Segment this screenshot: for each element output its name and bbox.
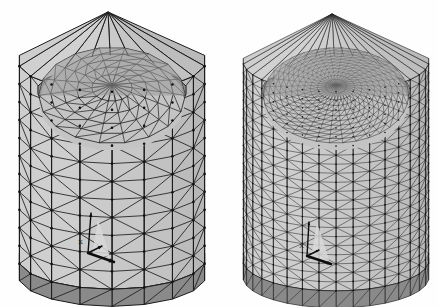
mesh-node — [425, 132, 427, 134]
mesh-node — [425, 105, 427, 107]
mesh-node — [111, 162, 114, 165]
mesh-node — [246, 105, 248, 107]
mesh-node — [286, 177, 288, 179]
mesh-node — [252, 119, 254, 121]
mesh-node — [143, 160, 146, 163]
mesh-node — [29, 237, 32, 240]
mesh-node — [302, 152, 304, 154]
mesh-node — [243, 145, 245, 147]
mesh-node — [335, 118, 337, 120]
mesh-node — [318, 290, 320, 292]
mesh-node — [335, 172, 337, 174]
mesh-node — [352, 217, 354, 219]
mesh-node — [252, 264, 254, 266]
mesh-node — [261, 106, 263, 108]
mesh-node — [425, 268, 427, 270]
mesh-node — [418, 146, 420, 148]
mesh-node — [398, 83, 400, 85]
mesh-node — [409, 97, 411, 99]
mesh-node — [425, 177, 427, 179]
mesh-node — [143, 89, 146, 92]
mesh-geometry: X — [18, 12, 206, 306]
mesh-node — [335, 163, 337, 165]
mesh-node — [79, 178, 82, 181]
mesh-node — [171, 245, 174, 248]
mesh-node — [273, 192, 275, 194]
mesh-node — [246, 268, 248, 270]
mesh-node — [398, 137, 400, 139]
mesh-node — [246, 241, 248, 243]
mesh-node — [428, 235, 430, 237]
mesh-node — [18, 191, 21, 194]
mesh-node — [50, 137, 53, 140]
mesh-node — [261, 206, 263, 208]
mesh-node — [335, 263, 337, 265]
mesh-node — [335, 191, 337, 193]
mesh-node — [246, 205, 248, 207]
mesh-node — [428, 154, 430, 156]
mesh-node — [243, 136, 245, 138]
mesh-node — [286, 195, 288, 197]
mesh-node — [286, 150, 288, 152]
mesh-node — [50, 209, 53, 212]
mesh-node — [143, 268, 146, 271]
mesh-node — [398, 246, 400, 248]
mesh-node — [273, 164, 275, 166]
mesh-node — [302, 98, 304, 100]
mesh-node — [143, 250, 146, 253]
mesh-node — [273, 92, 275, 94]
mesh-node — [79, 268, 82, 271]
mesh-node — [252, 128, 254, 130]
mesh-node — [302, 261, 304, 263]
mesh-node — [261, 115, 263, 117]
mesh-node — [335, 218, 337, 220]
mesh-node — [286, 141, 288, 143]
mesh-node — [143, 214, 146, 217]
mesh-node — [352, 272, 354, 274]
mesh-node — [243, 235, 245, 237]
mesh-node — [384, 123, 386, 125]
mesh-node — [318, 263, 320, 265]
mesh-node — [369, 170, 371, 172]
mesh-node — [273, 146, 275, 148]
mesh-node — [318, 136, 320, 138]
mesh-node — [369, 98, 371, 100]
mesh-node — [398, 282, 400, 284]
mesh-node — [243, 108, 245, 110]
mesh-node — [318, 154, 320, 156]
mesh-node — [192, 237, 195, 240]
mesh-node — [143, 196, 146, 199]
mesh-node — [243, 244, 245, 246]
mesh-node — [409, 160, 411, 162]
mesh-node — [261, 88, 263, 90]
mesh-node — [252, 255, 254, 257]
mesh-node — [111, 90, 114, 93]
mesh-node — [302, 143, 304, 145]
mesh-node — [352, 181, 354, 183]
mesh-node — [79, 160, 82, 163]
mesh-node — [252, 174, 254, 176]
mesh-node — [171, 137, 174, 140]
mesh-node — [425, 223, 427, 225]
mesh-node — [243, 99, 245, 101]
mesh-node — [425, 205, 427, 207]
mesh-node — [243, 172, 245, 174]
mesh-node — [192, 147, 195, 150]
mesh-node — [418, 201, 420, 203]
mesh-node — [335, 209, 337, 211]
mesh-node — [369, 134, 371, 136]
mesh-node — [425, 168, 427, 170]
mesh-node — [243, 117, 245, 119]
mesh-node — [246, 78, 248, 80]
mesh-node — [261, 142, 263, 144]
mesh-node — [369, 216, 371, 218]
mesh-node — [273, 155, 275, 157]
mesh-node — [335, 127, 337, 129]
mesh-node — [409, 269, 411, 271]
mesh-node — [273, 237, 275, 239]
mesh-node — [273, 183, 275, 185]
mesh-node — [252, 237, 254, 239]
mesh-node — [203, 173, 206, 176]
mesh-node — [246, 123, 248, 125]
mesh-node — [286, 213, 288, 215]
